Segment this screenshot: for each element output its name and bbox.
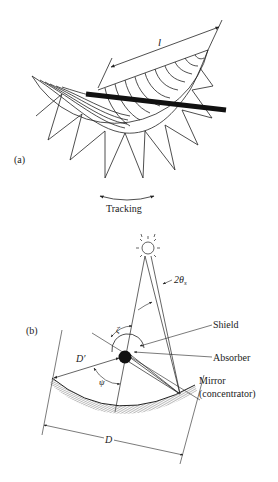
trough-back-rim: [98, 50, 208, 90]
absorber-label: Absorber: [213, 352, 251, 363]
zeta-label: ζ: [116, 325, 121, 335]
angle-sun-label: 2θs: [174, 274, 187, 287]
shield-leader: [140, 325, 212, 346]
tilt-axis: [92, 333, 200, 400]
length-label: l: [158, 36, 161, 48]
tracking-label: Tracking: [106, 203, 142, 214]
mirror-hatch: [50, 378, 197, 414]
absorber-tube: [86, 94, 226, 110]
psi-arc: [94, 368, 120, 384]
theta-pointer: [163, 280, 172, 284]
panel-a-label: (a): [14, 154, 25, 166]
theta-arc: [138, 302, 152, 310]
panel-b-label: (b): [26, 325, 38, 337]
shield-label: Shield: [213, 319, 239, 330]
d-prime-label: D′: [75, 353, 86, 364]
sun-icon: [136, 234, 160, 257]
d-label: D: [104, 434, 113, 445]
length-dimension: [98, 20, 222, 88]
concentrator-label: (concentrator): [199, 388, 256, 400]
figure-a-trough: [32, 50, 213, 178]
mirror-label: Mirror: [199, 375, 226, 386]
diagram-canvas: l (a) Tracking D′ ψ ζ 2θs: [0, 0, 278, 482]
d-prime-line: [54, 358, 119, 378]
absorber-leader: [134, 352, 212, 357]
tracking-arrow: [100, 196, 154, 200]
psi-label: ψ: [99, 377, 105, 387]
absorber: [119, 351, 132, 364]
